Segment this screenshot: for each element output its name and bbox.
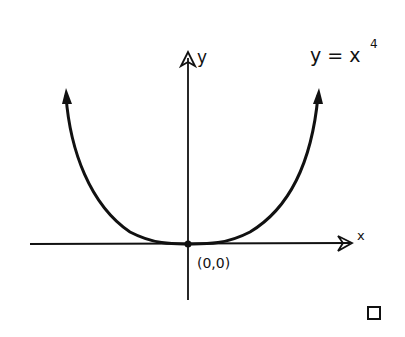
curve-right-arrow-icon [313, 88, 323, 104]
equation-exponent: 4 [370, 37, 378, 51]
x-axis-label: x [357, 228, 365, 243]
y-axis [181, 52, 195, 300]
curve-left-arrow-icon [62, 88, 72, 104]
origin-point [185, 241, 192, 248]
equation-label: y = x [310, 44, 361, 66]
graph-canvas: y x (0,0) y = x 4 [0, 0, 405, 337]
origin-label: (0,0) [197, 255, 230, 271]
end-marker-square [368, 307, 380, 319]
y-axis-label: y [197, 47, 207, 67]
quartic-curve [66, 96, 318, 244]
